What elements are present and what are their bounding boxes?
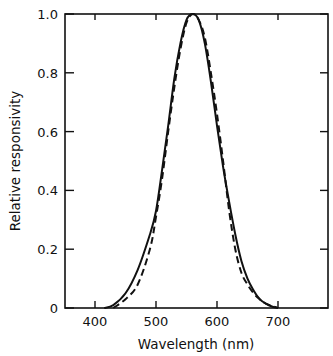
y-tick-label: 0.2 [37, 242, 58, 257]
y-tick-label: 0.8 [37, 66, 58, 81]
data-series [104, 14, 278, 308]
plot-frame [65, 14, 328, 308]
y-tick-label: 0.6 [37, 125, 58, 140]
y-axis-ticks: 00.20.40.60.81.0 [37, 7, 328, 316]
responsivity-chart: 400500600700 00.20.40.60.81.0 Wavelength… [0, 0, 333, 356]
x-tick-label: 600 [205, 314, 230, 329]
y-axis-title: Relative responsivity [7, 91, 23, 232]
dashed-curve [113, 14, 278, 308]
x-axis-title: Wavelength (nm) [138, 336, 255, 352]
x-tick-label: 400 [83, 314, 108, 329]
solid-curve [104, 14, 278, 308]
x-tick-label: 700 [266, 314, 291, 329]
plot-area: 400500600700 00.20.40.60.81.0 [37, 7, 328, 329]
x-tick-label: 500 [144, 314, 169, 329]
y-tick-label: 0 [50, 301, 58, 316]
y-tick-label: 0.4 [37, 183, 58, 198]
y-tick-label: 1.0 [37, 7, 58, 22]
x-axis-ticks: 400500600700 [83, 14, 291, 329]
